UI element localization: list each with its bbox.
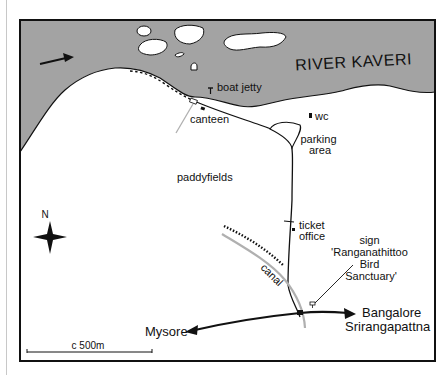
ticket-gate [284, 221, 294, 222]
mysore-label: Mysore [145, 324, 188, 339]
bridge-marker [189, 98, 197, 104]
svg-text:N: N [41, 209, 48, 220]
main-road [195, 312, 348, 330]
svg-text:c 500m: c 500m [72, 340, 105, 351]
parking-label: parking area [300, 133, 339, 156]
scale-bar: c 500m [27, 340, 152, 353]
wc-icon [309, 113, 312, 118]
bangalore-label: Bangalore Srirangapattna [345, 305, 431, 334]
paddyfields-label: paddyfields [177, 171, 233, 183]
compass-north-icon: N [33, 209, 67, 254]
canal-embankment-dashed [224, 226, 283, 265]
map-canvas: RIVER KAVERI boat jetty canteen wc parki… [0, 0, 443, 375]
sign-icon [310, 302, 315, 308]
wc-label: wc [314, 110, 329, 122]
junction-marker [297, 310, 303, 315]
arrow-to-bangalore-icon [344, 308, 356, 319]
ticket-office-icon [292, 228, 295, 231]
ticket-office-label: ticket office [299, 219, 328, 242]
canteen-icon [200, 106, 205, 110]
canteen-label: canteen [190, 113, 229, 125]
parking-loop [270, 122, 301, 148]
boat-jetty-label: boat jetty [217, 81, 262, 93]
